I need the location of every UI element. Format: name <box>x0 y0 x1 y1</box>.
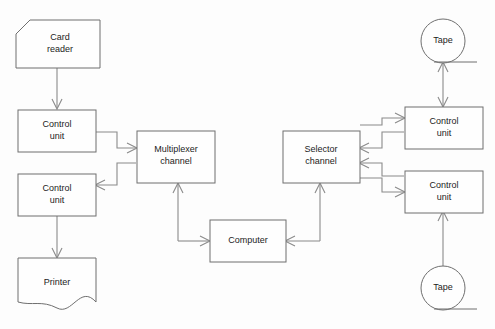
control-unit-printer-label-line2: unit <box>50 195 65 205</box>
node-card-reader[interactable]: Card reader <box>16 20 100 68</box>
node-tape-bottom[interactable]: Tape <box>421 266 477 310</box>
diagram-canvas: Card reader Control unit Control unit Pr… <box>0 0 495 329</box>
control-unit-tape-top-label-line1: Control <box>429 116 458 126</box>
multiplexer-channel-label-line2: channel <box>160 156 192 166</box>
control-unit-tape-bottom-label-line1: Control <box>429 180 458 190</box>
connector-multiplexer-to-control-unit-printer <box>95 163 136 190</box>
connector-selector-to-control-unit-tape-top <box>360 113 405 125</box>
control-unit-reader-label-line2: unit <box>50 131 65 141</box>
card-reader-label-line1: Card <box>50 32 70 42</box>
tape-bottom-label: Tape <box>433 282 453 292</box>
printer-label: Printer <box>44 277 71 287</box>
connector-control-unit-reader-to-multiplexer <box>96 132 137 153</box>
multiplexer-channel-label-line1: Multiplexer <box>154 144 198 154</box>
connector-computer-to-multiplexer <box>173 183 183 241</box>
connector-tape-bottom-to-control-unit <box>438 211 448 268</box>
connector-selector-to-computer <box>285 236 320 246</box>
node-printer[interactable]: Printer <box>18 258 96 309</box>
connector-control-unit-tape-top-to-selector <box>359 132 404 153</box>
node-multiplexer-channel[interactable]: Multiplexer channel <box>137 131 215 183</box>
connector-computer-to-selector <box>315 183 325 241</box>
control-unit-tape-bottom-label-line2: unit <box>437 192 452 202</box>
connector-control-unit-tape-bottom-to-selector <box>359 158 404 176</box>
card-reader-label-line2: reader <box>47 44 73 54</box>
node-tape-top[interactable]: Tape <box>421 19 477 63</box>
node-control-unit-tape-top[interactable]: Control unit <box>405 107 483 149</box>
control-unit-tape-top-label-line2: unit <box>437 128 452 138</box>
tape-top-label: Tape <box>433 35 453 45</box>
connector-tape-top-control-unit-bidirectional <box>438 62 448 107</box>
diagram-svg: Card reader Control unit Control unit Pr… <box>0 0 495 329</box>
node-control-unit-tape-bottom[interactable]: Control unit <box>405 171 483 213</box>
control-unit-reader-label-line1: Control <box>42 119 71 129</box>
connector-card-reader-to-control-unit <box>52 68 62 109</box>
computer-label: Computer <box>228 235 268 245</box>
selector-channel-label-line1: Selector <box>304 144 337 154</box>
node-control-unit-reader[interactable]: Control unit <box>18 110 96 152</box>
node-selector-channel[interactable]: Selector channel <box>283 131 360 183</box>
node-computer[interactable]: Computer <box>210 220 286 262</box>
node-control-unit-printer[interactable]: Control unit <box>18 174 96 216</box>
connector-multiplexer-to-computer <box>178 236 210 246</box>
connector-selector-to-control-unit-tape-bottom <box>360 178 405 197</box>
selector-channel-label-line2: channel <box>305 156 337 166</box>
control-unit-printer-label-line1: Control <box>42 183 71 193</box>
